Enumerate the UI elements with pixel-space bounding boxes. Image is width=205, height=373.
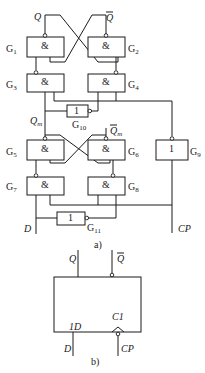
caption-a: a) [94,239,102,251]
inverter-bubble-icon [111,174,115,178]
inverter-bubble-icon [34,71,38,75]
inverter-bubble-icon [43,34,47,38]
gate-g4: & G4 [88,71,139,92]
svg-text:G9: G9 [190,146,201,159]
svg-text:G4: G4 [128,79,139,92]
inverter-bubble-icon [114,71,118,75]
inverter-bubble-icon [85,216,89,220]
master-qm-bar-label: Qm [110,125,122,138]
svg-text:Q: Q [117,253,125,264]
inverter-bubble-icon [170,137,174,141]
output-q-bar-label-b: Q [117,253,125,264]
svg-text:G7: G7 [6,181,17,194]
flip-flop-diagram: Q Q & G1 & G2 [0,0,205,373]
gate-g8: & G8 [88,174,139,195]
master-qm-label: Qm [30,115,42,128]
svg-text:G3: G3 [6,79,17,92]
input-cp-label-b: CP [121,343,134,354]
inverter-bubble-icon [88,109,92,113]
inverter-bubble-icon [110,273,114,277]
svg-text:&: & [102,143,110,154]
svg-text:G2: G2 [128,43,139,56]
svg-text:G1: G1 [6,43,17,56]
output-q-label-b: Q [69,253,77,264]
gate-g7: & G7 [6,174,64,195]
svg-text:&: & [41,143,49,154]
svg-text:Qm: Qm [110,125,122,138]
gate-g5: & G5 [6,137,64,160]
d-flip-flop-symbol [54,277,141,332]
svg-text:G11: G11 [87,222,101,235]
svg-text:Q: Q [106,12,114,23]
svg-text:G8: G8 [128,181,139,194]
output-q-label: Q [34,11,42,22]
svg-text:&: & [41,179,49,190]
output-q-bar-label: Q [106,12,114,23]
figure-a: Q Q & G1 & G2 [6,11,201,251]
inverter-bubble-icon [43,137,47,141]
gate-g3: & G3 [6,71,64,92]
svg-text:&: & [102,76,110,87]
svg-text:1: 1 [169,143,174,154]
input-cp-label: CP [178,223,191,234]
svg-text:&: & [41,76,49,87]
svg-text:1: 1 [74,105,79,116]
inverter-bubble-icon [116,332,120,336]
svg-text:&: & [102,179,110,190]
input-d-label: D [23,223,32,234]
gate-g10: 1 G10 [67,105,92,132]
inverter-bubble-icon [34,174,38,178]
inverter-bubble-icon [104,137,108,141]
svg-text:G10: G10 [72,119,87,132]
inverter-bubble-icon [104,34,108,38]
pin-1d-label: 1D [69,321,82,332]
gate-g6: & G6 [88,137,139,160]
caption-b: b) [91,356,99,368]
figure-b: Q Q 1D C1 D CP b) [54,250,141,368]
svg-text:1: 1 [68,212,73,223]
gate-g1: & G1 [6,34,64,57]
gate-g11: 1 G11 [57,212,101,235]
svg-text:G6: G6 [128,146,139,159]
gate-g2: & G2 [88,34,139,57]
svg-text:G5: G5 [6,146,17,159]
input-d-label-b: D [63,343,72,354]
svg-text:&: & [41,40,49,51]
pin-c1-label: C1 [112,311,124,322]
svg-text:&: & [102,40,110,51]
gate-g9: 1 G9 [156,137,201,160]
